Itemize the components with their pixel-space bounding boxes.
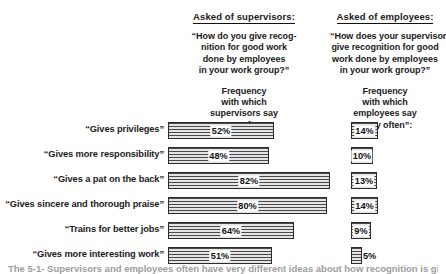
column-question-supervisors: “How do you give recog- nition for good …: [158, 31, 330, 77]
frequency-line: employees say: [330, 108, 440, 119]
bar-value-supervisors: 64%: [220, 225, 241, 236]
bar-value-employees: 9%: [353, 225, 369, 236]
bar-value-employees: 14%: [354, 125, 375, 136]
question-line: “How does your supervisor: [330, 31, 440, 42]
question-line: nition for good work: [158, 42, 330, 53]
frequency-line: Frequency: [158, 86, 330, 97]
chart-row: “Gives more responsibility” 48% 10%: [0, 146, 440, 165]
row-label: “Gives privileges”: [85, 124, 164, 134]
row-label: “Gives more interesting work”: [33, 249, 164, 259]
bar-value-employees: 5%: [363, 250, 376, 261]
column-header-employees: Asked of employees: “How does your super…: [330, 6, 440, 131]
chart-row: “Gives a pat on the back” 82% 13%: [0, 171, 440, 190]
question-line: in your work group?”: [330, 65, 440, 76]
column-title-supervisors: Asked of supervisors:: [193, 11, 295, 24]
column-title-employees: Asked of employees:: [337, 11, 434, 24]
column-header-supervisors: Asked of supervisors: “How do you give r…: [158, 6, 330, 131]
bar-supervisors: 64%: [168, 222, 294, 239]
bar-employees: 5%: [351, 247, 362, 264]
frequency-line: with which: [330, 97, 440, 108]
row-label: “Gives more responsibility”: [44, 149, 164, 159]
bar-employees: 14%: [351, 122, 378, 139]
row-label: “Gives sincere and thorough praise”: [5, 199, 164, 209]
question-line: give recognition for good: [330, 42, 440, 53]
bar-employees: 14%: [351, 197, 378, 214]
bar-employees: 10%: [351, 147, 373, 164]
chart-row: “Gives sincere and thorough praise” 80% …: [0, 196, 440, 215]
bar-value-supervisors: 48%: [208, 150, 229, 161]
frequency-line: supervisors say: [158, 108, 330, 119]
bar-supervisors: 52%: [168, 122, 274, 139]
bar-value-employees: 10%: [351, 150, 372, 161]
bar-value-employees: 14%: [354, 200, 375, 211]
frequency-line: Frequency: [330, 86, 440, 97]
bar-value-supervisors: 51%: [209, 250, 230, 261]
bar-supervisors: 82%: [168, 172, 330, 189]
row-label: “Trains for better jobs”: [65, 224, 164, 234]
bar-employees: 9%: [351, 222, 371, 239]
column-question-employees: “How does your supervisor give recogniti…: [330, 31, 440, 77]
bar-employees: 13%: [351, 172, 377, 189]
row-label: “Gives a pat on the back”: [53, 174, 164, 184]
question-line: “How do you give recog-: [158, 31, 330, 42]
bar-supervisors: 51%: [168, 247, 272, 264]
bar-value-supervisors: 82%: [238, 175, 259, 186]
bar-supervisors: 48%: [168, 147, 269, 164]
frequency-line: with which: [158, 97, 330, 108]
bar-value-supervisors: 80%: [237, 200, 258, 211]
figure-caption: The 5-1- Supervisors and employees often…: [8, 263, 438, 274]
question-line: in your work group?”: [158, 65, 330, 76]
bar-value-supervisors: 52%: [210, 125, 231, 136]
bar-supervisors: 80%: [168, 197, 327, 214]
question-line: done by employees: [158, 54, 330, 65]
chart-row: “Gives privileges” 52% 14%: [0, 121, 440, 140]
question-line: work done by employees: [330, 54, 440, 65]
chart-row: “Trains for better jobs” 64% 9%: [0, 221, 440, 240]
bar-value-employees: 13%: [353, 175, 374, 186]
